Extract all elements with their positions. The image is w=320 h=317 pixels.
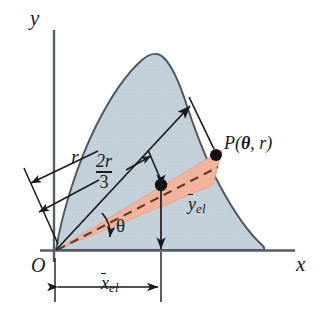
point-prefix: P( <box>224 133 241 153</box>
figure-container: y x O r 2r 3 θ P(θ, r) yel xel <box>0 0 320 317</box>
x-bar-symbol: x <box>101 274 109 292</box>
boundary-point-label: P(θ, r) <box>224 134 272 152</box>
y-axis-label: y <box>30 8 39 29</box>
fraction-numerator: 2r <box>96 152 112 170</box>
y-bar-symbol: y <box>188 195 196 213</box>
boundary-point-dot <box>210 149 222 161</box>
diagram-canvas <box>0 0 320 317</box>
point-suffix: ) <box>266 133 272 153</box>
point-comma: , <box>250 133 259 153</box>
radius-label: r <box>71 147 79 167</box>
y-bar-subscript: el <box>196 201 206 216</box>
x-bar-subscript: el <box>109 280 119 295</box>
point-theta-symbol: θ <box>241 133 250 153</box>
x-axis-label: x <box>296 254 305 275</box>
centroid-distance-fraction: 2r 3 <box>96 152 112 191</box>
y-el-label: yel <box>188 195 206 216</box>
x-el-label: xel <box>101 274 119 295</box>
origin-label: O <box>31 255 45 275</box>
fraction-denominator: 3 <box>96 173 112 191</box>
boundary-point-group <box>210 149 222 161</box>
theta-angle-label: θ <box>116 216 125 235</box>
